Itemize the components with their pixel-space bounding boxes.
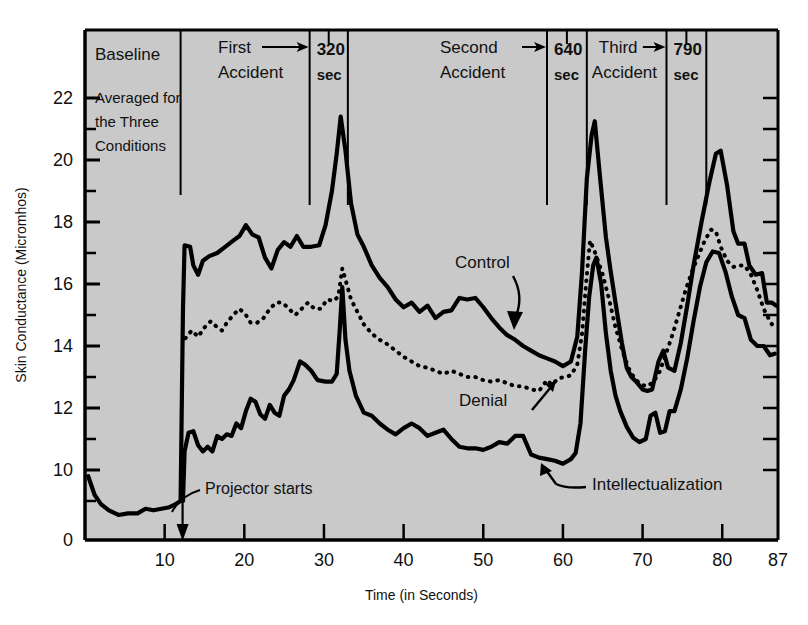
annotation-control: Control [455,253,510,272]
label-baseline: Baseline [95,45,160,64]
y-tick-label: 18 [53,212,73,232]
plot-background [85,30,778,540]
annotation-projector-starts: Projector starts [205,480,313,497]
x-tick-label: 10 [155,550,175,570]
skin-conductance-line-chart: 010121416182022102030405060708087Time (i… [0,0,808,625]
label-accident-1: Accident [218,63,283,82]
chart-page: 010121416182022102030405060708087Time (i… [0,0,808,625]
chart-svg: 010121416182022102030405060708087Time (i… [0,0,808,625]
x-tick-label: 70 [633,550,653,570]
x-tick-label: 50 [473,550,493,570]
x-axis-title: Time (in Seconds) [365,587,478,603]
averaged-note-line-1: Averaged for [95,89,181,106]
y-tick-label: 10 [53,460,73,480]
label-third: Third [599,38,638,57]
label-640-sec-unit: sec [554,66,579,83]
x-tick-label: 87 [768,550,788,570]
label-790-sec-unit: sec [673,66,698,83]
averaged-note-line-3: Conditions [95,137,166,154]
x-tick-label: 40 [394,550,414,570]
y-tick-label: 22 [53,88,73,108]
label-320-sec-value: 320 [317,40,345,59]
x-tick-label: 20 [234,550,254,570]
label-320-sec-unit: sec [317,66,342,83]
label-640-sec-value: 640 [554,40,582,59]
x-tick-label: 80 [712,550,732,570]
label-790-sec-value: 790 [673,40,701,59]
label-accident-3: Accident [592,63,657,82]
y-tick-label: 12 [53,398,73,418]
y-axis-title: Skin Conductance (Micromhos) [13,187,29,382]
y-tick-label: 20 [53,150,73,170]
y-tick-label: 0 [63,530,73,550]
x-tick-label: 30 [314,550,334,570]
y-tick-label: 14 [53,336,73,356]
label-accident-2: Accident [440,63,505,82]
label-first: First [218,38,251,57]
averaged-note-line-2: the Three [95,113,159,130]
label-second: Second [440,38,498,57]
y-tick-label: 16 [53,274,73,294]
annotation-intellectualization: Intellectualization [592,475,722,494]
annotation-denial: Denial [459,391,507,410]
x-tick-label: 60 [553,550,573,570]
